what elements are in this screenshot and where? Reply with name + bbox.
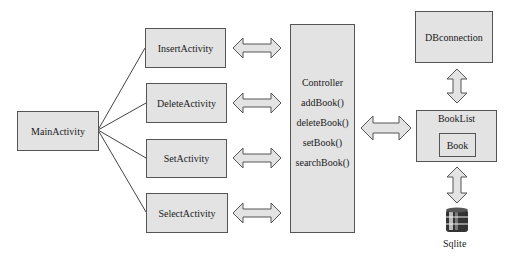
set-activity-box: SetActivity	[146, 139, 227, 178]
controller-title: Controller	[302, 73, 343, 93]
double-arrow-select	[233, 203, 281, 223]
set-activity-label: SetActivity	[164, 153, 210, 164]
delete-activity-label: DeleteActivity	[157, 98, 216, 109]
insert-activity-box: InsertActivity	[145, 28, 226, 68]
database-icon	[446, 208, 468, 233]
delete-activity-box: DeleteActivity	[146, 83, 227, 123]
double-arrow-db-booklist	[447, 69, 467, 103]
method-set-book: setBook()	[303, 133, 342, 153]
controller-box: Controller addBook() deleteBook() setBoo…	[290, 24, 355, 233]
connector-main-set	[98, 130, 146, 158]
select-activity-label: SelectActivity	[158, 208, 215, 219]
double-arrow-insert	[233, 38, 281, 58]
method-add-book: addBook()	[301, 93, 344, 113]
double-arrow-booklist-sqlite	[447, 167, 467, 203]
insert-activity-label: InsertActivity	[158, 43, 214, 54]
select-activity-box: SelectActivity	[146, 193, 228, 233]
book-box: Book	[439, 133, 476, 157]
double-arrow-delete	[233, 93, 281, 113]
dbconnection-label: DBconnection	[425, 32, 483, 43]
connector-main-select	[98, 130, 146, 212]
main-activity-label: MainActivity	[31, 126, 85, 137]
double-arrow-controller-booklist	[361, 116, 411, 140]
book-label: Book	[447, 140, 469, 151]
double-arrow-set	[233, 148, 281, 168]
connector-main-insert	[98, 48, 145, 130]
booklist-label: BookList	[438, 113, 475, 124]
dbconnection-box: DBconnection	[415, 11, 493, 63]
main-activity-box: MainActivity	[17, 111, 99, 151]
method-delete-book: deleteBook()	[296, 113, 348, 133]
method-search-book: searchBook()	[296, 153, 350, 173]
sqlite-label: Sqlite	[443, 238, 466, 249]
